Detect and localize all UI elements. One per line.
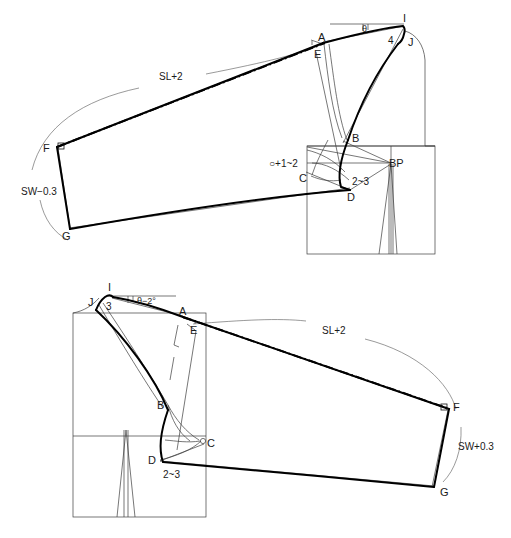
upper-label-shoulder-ext: 4 [388,35,394,46]
lower-label-F: F [453,401,460,413]
lower-label-E: E [190,324,197,336]
upper-label-notch-dim: 2~3 [352,176,369,187]
lower-label-G: G [440,486,449,498]
upper-label-angle: θ [362,24,367,34]
lower-bodice-block [73,298,206,517]
upper-label-sleeve-width: SW−0.3 [21,186,57,197]
upper-label-C: C [299,172,307,184]
upper-label-J: J [408,36,414,48]
upper-label-A: A [318,31,326,43]
upper-diagram: A B C D E F G I J BP SL+2 SW−0.3 4 θ ○+1… [21,12,435,254]
lower-label-angle: θ−2° [137,296,156,306]
lower-label-shoulder-ext: 3 [106,301,112,312]
upper-label-B: B [352,132,359,144]
lower-label-J: J [88,296,94,308]
upper-label-BP: BP [389,157,404,169]
lower-label-sleeve-width: SW+0.3 [458,441,494,452]
upper-label-G: G [62,230,71,242]
lower-label-B: B [157,399,164,411]
upper-label-E: E [314,48,321,60]
drawing-sheet: A B C D E F G I J BP SL+2 SW−0.3 4 θ ○+1… [0,0,511,538]
upper-label-I: I [403,12,406,24]
lower-diagram: A B C D E F G I J SL+2 SW+0.3 3 θ−2° 2~3 [73,281,494,517]
upper-label-sleeve-length: SL+2 [159,71,183,82]
lower-label-A: A [179,305,187,317]
lower-measure-arcs [193,320,461,482]
upper-label-F: F [43,142,50,154]
upper-label-D: D [347,191,355,203]
lower-circle-marker [200,438,205,443]
upper-label-circle-plus: ○+1~2 [269,158,298,169]
lower-label-sleeve-length: SL+2 [322,325,346,336]
lower-label-I: I [108,281,111,293]
lower-label-C: C [207,437,215,449]
lower-label-D: D [148,454,156,466]
lower-label-notch-dim: 2~3 [163,469,180,480]
